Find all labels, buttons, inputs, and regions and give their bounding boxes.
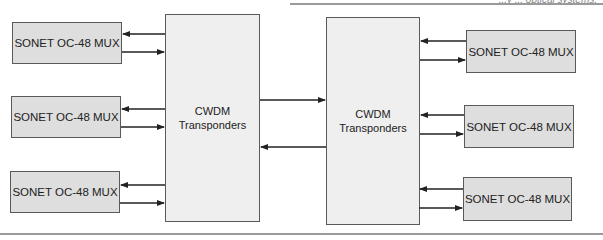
connection-arrows (0, 0, 603, 240)
